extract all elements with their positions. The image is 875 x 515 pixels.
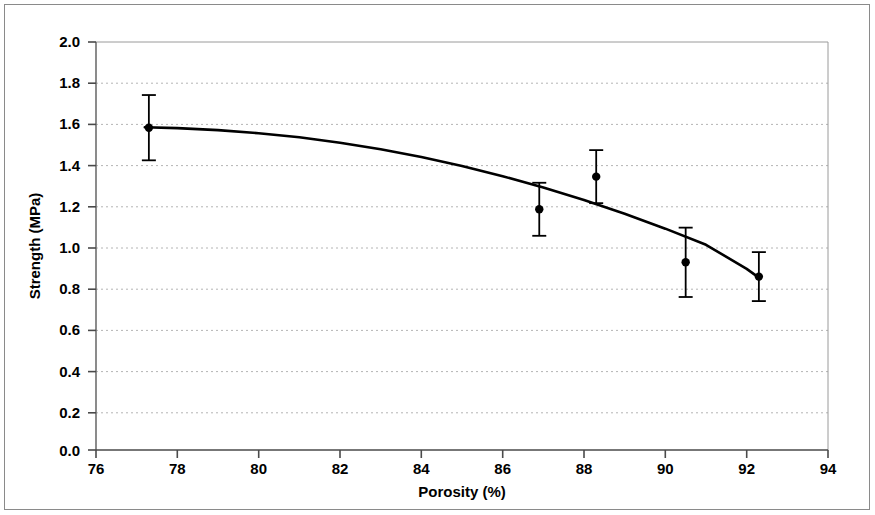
ytick-label-0.2: 0.2 [59,404,80,421]
xtick-label-82: 82 [332,460,349,477]
xtick-label-92: 92 [738,460,755,477]
ytick-label-1.4: 1.4 [59,157,81,174]
data-point-marker [681,258,689,266]
ytick-label-1.8: 1.8 [59,74,80,91]
x-axis-ticks [96,450,828,458]
ytick-label-0.8: 0.8 [59,280,80,297]
data-point-marker [145,123,153,131]
data-point-marker [755,272,763,280]
x-axis-title: Porosity (%) [418,483,506,500]
x-axis-tick-labels: 76 78 80 82 84 86 88 90 92 94 [88,460,837,477]
data-point-marker [535,205,543,213]
figure-container: 2.0 1.8 1.6 1.4 1.2 1.0 0.8 0.6 0.4 0.2 … [0,0,875,515]
strength-vs-porosity-chart: 2.0 1.8 1.6 1.4 1.2 1.0 0.8 0.6 0.4 0.2 … [0,0,875,515]
y-axis-tick-labels: 2.0 1.8 1.6 1.4 1.2 1.0 0.8 0.6 0.4 0.2 … [59,33,81,459]
xtick-label-84: 84 [413,460,430,477]
y-axis-title: Strength (MPa) [26,193,43,300]
xtick-label-80: 80 [250,460,267,477]
ytick-label-0.4: 0.4 [59,363,81,380]
xtick-label-76: 76 [88,460,105,477]
ytick-label-2.0: 2.0 [59,33,80,50]
ytick-label-1.6: 1.6 [59,115,80,132]
y-axis-ticks [88,42,96,450]
ytick-label-1.2: 1.2 [59,198,80,215]
xtick-label-78: 78 [169,460,186,477]
xtick-label-90: 90 [657,460,674,477]
xtick-label-94: 94 [820,460,837,477]
ytick-label-0.0: 0.0 [59,442,80,459]
plot-background [96,42,828,450]
data-point-marker [592,172,600,180]
ytick-label-0.6: 0.6 [59,321,80,338]
xtick-label-86: 86 [494,460,511,477]
xtick-label-88: 88 [576,460,593,477]
ytick-label-1.0: 1.0 [59,239,80,256]
